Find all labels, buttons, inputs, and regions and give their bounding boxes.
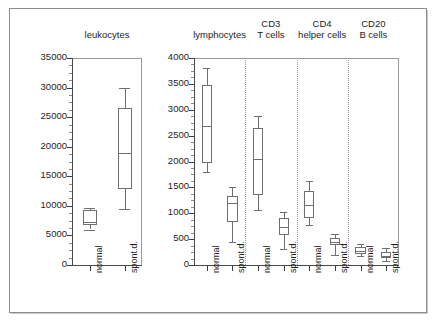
y-tick-minor: [69, 213, 72, 214]
whisker-upper: [207, 68, 208, 85]
y-tick-minor: [69, 73, 72, 74]
whisker-upper: [309, 181, 310, 191]
whisker-cap-lower: [357, 256, 364, 257]
whisker-cap-lower: [84, 230, 94, 231]
y-tick-major: [67, 206, 72, 207]
y-tick-minor: [69, 110, 72, 111]
x-tick-label-spontd: spont.d.: [390, 241, 400, 273]
y-tick-label: 500: [141, 232, 189, 243]
y-tick-major: [189, 110, 194, 111]
whisker-cap-lower: [119, 209, 129, 210]
box-whisker: [118, 9, 132, 267]
y-tick-major: [67, 58, 72, 59]
box-whisker: [202, 9, 212, 267]
y-tick-major: [189, 58, 194, 59]
y-tick-minor: [69, 162, 72, 163]
whisker-lower: [258, 195, 259, 210]
y-tick-major: [189, 239, 194, 240]
whisker-upper: [258, 116, 259, 128]
quartile-box: [227, 196, 237, 222]
y-tick-minor: [191, 207, 194, 208]
y-tick-minor: [191, 174, 194, 175]
whisker-upper: [125, 88, 126, 108]
median-line: [202, 126, 212, 127]
whisker-lower: [232, 222, 233, 242]
section-separator: [348, 58, 349, 265]
y-tick-label: 35000: [19, 51, 67, 62]
median-line: [279, 227, 289, 228]
y-tick-major: [67, 265, 72, 266]
y-tick-minor: [191, 129, 194, 130]
y-tick-label: 30000: [19, 81, 67, 92]
y-tick-label: 1500: [141, 180, 189, 191]
median-line: [118, 153, 132, 154]
section-separator: [297, 58, 298, 265]
box-whisker: [253, 9, 263, 267]
y-tick-major: [67, 176, 72, 177]
y-tick-minor: [191, 64, 194, 65]
y-tick-minor: [69, 243, 72, 244]
y-tick-minor: [191, 200, 194, 201]
whisker-cap-lower: [254, 210, 261, 211]
whisker-cap-upper: [254, 116, 261, 117]
y-tick-label: 3000: [141, 103, 189, 114]
y-tick-minor: [191, 149, 194, 150]
y-tick-label: 4000: [141, 51, 189, 62]
y-tick-label: 10000: [19, 199, 67, 210]
box-whisker: [330, 9, 340, 267]
box-whisker: [227, 9, 237, 267]
x-tick-label-normal: normal: [313, 245, 323, 273]
y-tick-minor: [191, 246, 194, 247]
y-tick-minor: [69, 258, 72, 259]
y-tick-minor: [69, 139, 72, 140]
whisker-cap-upper: [203, 68, 210, 69]
whisker-cap-upper: [382, 248, 389, 249]
median-line: [83, 222, 97, 223]
median-line: [355, 251, 365, 252]
y-tick-major: [67, 117, 72, 118]
box-whisker: [304, 9, 314, 267]
whisker-cap-upper: [331, 234, 338, 235]
x-tick-label-normal: normal: [365, 245, 375, 273]
x-tick-label-normal: normal: [211, 245, 221, 273]
y-tick-minor: [191, 97, 194, 98]
y-tick-minor: [191, 226, 194, 227]
median-line: [330, 242, 340, 243]
quartile-box: [118, 108, 132, 189]
median-line: [304, 205, 314, 206]
y-tick-major: [189, 213, 194, 214]
whisker-cap-lower: [203, 172, 210, 173]
y-tick-major: [67, 147, 72, 148]
y-tick-minor: [191, 77, 194, 78]
y-tick-label: 2500: [141, 129, 189, 140]
y-tick-major: [189, 162, 194, 163]
y-tick-minor: [191, 142, 194, 143]
whisker-upper: [232, 187, 233, 196]
y-tick-minor: [191, 155, 194, 156]
y-tick-major: [67, 235, 72, 236]
y-tick-minor: [69, 191, 72, 192]
y-tick-minor: [69, 154, 72, 155]
figure-frame: 05000100001500020000250003000035000norma…: [9, 8, 427, 313]
whisker-cap-upper: [357, 244, 364, 245]
y-tick-label: 1000: [141, 206, 189, 217]
whisker-cap-lower: [331, 255, 338, 256]
y-tick-minor: [69, 65, 72, 66]
y-tick-major: [67, 88, 72, 89]
median-line: [227, 203, 237, 204]
y-axis-subsets: [194, 58, 195, 266]
y-tick-minor: [191, 194, 194, 195]
y-tick-minor: [191, 116, 194, 117]
y-tick-major: [189, 187, 194, 188]
panel-title: CD20 B cells: [327, 18, 419, 40]
whisker-lower: [284, 235, 285, 249]
x-tick-label-normal: normal: [262, 245, 272, 273]
y-tick-minor: [191, 220, 194, 221]
y-tick-minor: [69, 102, 72, 103]
y-tick-label: 15000: [19, 169, 67, 180]
whisker-cap-lower: [280, 249, 287, 250]
whisker-cap-upper: [280, 212, 287, 213]
whisker-cap-upper: [306, 181, 313, 182]
y-tick-minor: [191, 233, 194, 234]
whisker-lower: [207, 163, 208, 172]
